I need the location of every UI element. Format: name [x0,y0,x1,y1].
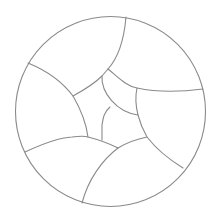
edge-bottom-mid [118,137,147,148]
edge-bottom-left [25,136,118,152]
edge-top-to-hub [108,17,126,69]
edge-bottom-down [82,148,118,203]
circle-partition-diagram [0,0,220,217]
edge-hub-to-right [108,69,203,92]
edge-left-upper [28,63,88,137]
edge-right-vertical [136,88,183,168]
edge-inner-small [102,107,110,140]
outer-circle [16,17,206,207]
